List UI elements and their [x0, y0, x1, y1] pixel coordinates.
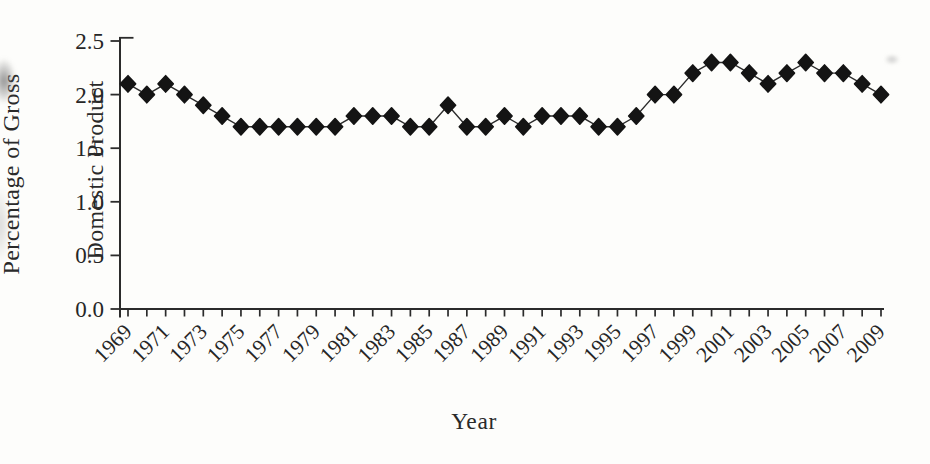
- y-tick-label: 2.5: [75, 29, 104, 54]
- data-point-marker: [591, 119, 606, 135]
- x-tick-label: 2005: [767, 320, 814, 367]
- data-point-marker: [873, 86, 888, 102]
- data-point-marker: [553, 108, 568, 124]
- data-point-marker: [497, 108, 512, 124]
- data-point-marker: [365, 108, 380, 124]
- x-tick-label: 1993: [541, 320, 588, 367]
- data-point-marker: [779, 65, 794, 81]
- data-point-marker: [177, 86, 192, 102]
- x-tick-label: 2001: [692, 320, 739, 367]
- x-tick-label: 1991: [503, 320, 550, 367]
- data-point-marker: [817, 65, 832, 81]
- x-tick-label: 1977: [240, 319, 288, 367]
- data-point-marker: [836, 65, 851, 81]
- data-point-marker: [139, 86, 154, 102]
- data-point-marker: [855, 76, 870, 92]
- data-point-marker: [309, 119, 324, 135]
- y-axis-title-line2: Domestic Product: [82, 80, 109, 259]
- chart-figure: 0.00.51.01.52.02.51969197119731975197719…: [0, 0, 930, 464]
- data-point-marker: [120, 76, 135, 92]
- y-axis-title-line1: Percentage of Gross: [0, 74, 25, 275]
- data-point-marker: [478, 119, 493, 135]
- x-tick-label: 2007: [805, 319, 853, 367]
- data-point-marker: [290, 119, 305, 135]
- x-tick-label: 1971: [127, 320, 174, 367]
- x-tick-label: 1995: [579, 320, 626, 367]
- data-point-marker: [252, 119, 267, 135]
- data-point-marker: [572, 108, 587, 124]
- line-chart: 0.00.51.01.52.02.51969197119731975197719…: [0, 0, 930, 464]
- x-tick-label: 2003: [729, 320, 776, 367]
- x-tick-label: 1985: [390, 320, 437, 367]
- x-tick-label: 1999: [654, 320, 701, 367]
- data-point-marker: [516, 119, 531, 135]
- data-point-marker: [798, 54, 813, 70]
- data-point-marker: [610, 119, 625, 135]
- data-point-marker: [327, 119, 342, 135]
- x-tick-label: 1981: [315, 320, 362, 367]
- data-point-marker: [196, 97, 211, 113]
- data-point-marker: [704, 54, 719, 70]
- x-tick-label: 1979: [277, 320, 324, 367]
- x-axis-title: Year: [451, 408, 497, 435]
- y-tick-label: 0.0: [75, 297, 104, 322]
- data-point-marker: [403, 119, 418, 135]
- data-point-marker: [760, 76, 775, 92]
- data-point-marker: [742, 65, 757, 81]
- x-tick-label: 1969: [89, 320, 136, 367]
- x-tick-label: 1983: [353, 320, 400, 367]
- x-tick-label: 2009: [842, 320, 889, 367]
- x-tick-label: 1997: [616, 319, 664, 367]
- x-tick-label: 1975: [202, 320, 249, 367]
- x-tick-label: 1989: [466, 320, 513, 367]
- x-tick-label: 1987: [428, 319, 476, 367]
- data-point-marker: [535, 108, 550, 124]
- data-point-marker: [158, 76, 173, 92]
- data-point-marker: [215, 108, 230, 124]
- data-point-marker: [346, 108, 361, 124]
- data-point-marker: [271, 119, 286, 135]
- data-point-marker: [233, 119, 248, 135]
- data-point-marker: [723, 54, 738, 70]
- x-tick-label: 1973: [164, 320, 211, 367]
- data-point-marker: [384, 108, 399, 124]
